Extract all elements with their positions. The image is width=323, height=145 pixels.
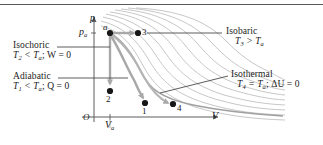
va-subscript: a (111, 124, 114, 131)
isobaric-T-sub: 3 (240, 40, 243, 47)
axis-origin-label: O (83, 112, 90, 122)
isochoric-T-sub: 2 (18, 54, 21, 61)
isochoric-tail: ; W = 0 (42, 50, 71, 60)
annotation-isothermal-condition: T4 = Ta; ΔU = 0 (231, 80, 300, 90)
isobaric-Ta-sub: a (261, 40, 264, 47)
axis-label-volume: V (212, 110, 218, 121)
annotation-isothermal: Isothermal T4 = Ta; ΔU = 0 (231, 70, 300, 90)
point-marker-3 (135, 30, 141, 36)
adiabatic-tail: ; Q = 0 (42, 81, 69, 91)
isothermal-rel: = T (246, 79, 263, 89)
point-marker-4 (170, 101, 176, 107)
pa-subscript: a (84, 31, 87, 38)
point-label-2: 2 (106, 94, 111, 104)
annotation-isobaric: Isobaric T3 > Ta (226, 27, 264, 47)
isothermal-Ta-sub: a (263, 83, 266, 90)
annotation-isobaric-condition: T3 > Ta (226, 37, 264, 47)
pv-diagram-figure: p V O pa Va a 3 2 1 4 Isochoric T2 < Ta;… (0, 0, 323, 145)
point-label-3: 3 (142, 27, 147, 37)
axis-tick-label-va: Va (105, 119, 114, 130)
annotation-adiabatic-condition: T1 < Ta; Q = 0 (13, 82, 69, 92)
isothermal-tail: ; ΔU = 0 (266, 79, 300, 89)
annotation-adiabatic: Adiabatic T1 < Ta; Q = 0 (13, 72, 69, 92)
adiabatic-T-sub: 1 (18, 85, 21, 92)
point-label-a: a (103, 22, 108, 32)
isochoric-rel: < T (22, 50, 39, 60)
annotation-isochoric: Isochoric T2 < Ta; W = 0 (13, 41, 71, 61)
isothermal-T-sub: 4 (242, 83, 245, 90)
axis-label-pressure: p (90, 12, 95, 23)
adiabatic-rel: < T (22, 81, 39, 91)
point-label-4: 4 (177, 103, 182, 113)
axis-tick-label-pa: pa (79, 26, 87, 37)
isobaric-rel: > T (244, 36, 261, 46)
isochoric-Ta-sub: a (39, 54, 42, 61)
point-label-1: 1 (142, 106, 147, 116)
isotherm-family (101, 8, 285, 120)
adiabatic-Ta-sub: a (39, 85, 42, 92)
annotation-isochoric-condition: T2 < Ta; W = 0 (13, 51, 71, 61)
